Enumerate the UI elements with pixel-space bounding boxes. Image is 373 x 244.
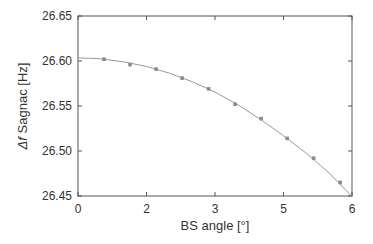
fit-curve xyxy=(78,58,352,197)
y-tick-label: 26.50 xyxy=(42,144,72,158)
plot-frame xyxy=(78,16,352,196)
y-axis-ticks: 26.4526.5026.5526.6026.65 xyxy=(42,9,352,203)
data-point-marker xyxy=(180,76,184,80)
data-point-marker xyxy=(128,63,132,67)
data-point-marker xyxy=(259,117,263,121)
x-tick-label: 0 xyxy=(75,202,82,216)
data-point-marker xyxy=(207,87,211,91)
y-axis-label-text: Sagnac [Hz] xyxy=(15,63,30,137)
data-point-marker xyxy=(338,181,342,185)
data-point-marker xyxy=(154,67,158,71)
y-axis-label: Δf Sagnac [Hz] xyxy=(15,63,30,151)
data-point-marker xyxy=(312,156,316,160)
x-axis-ticks: 02356 xyxy=(75,16,356,216)
chart: 02356 26.4526.5026.5526.6026.65 BS angle… xyxy=(0,0,373,244)
x-tick-label: 3 xyxy=(212,202,219,216)
y-tick-label: 26.60 xyxy=(42,54,72,68)
data-point-marker xyxy=(102,57,106,61)
x-axis-label: BS angle [°] xyxy=(181,218,250,233)
data-point-marker xyxy=(285,137,289,141)
data-point-marker xyxy=(233,102,237,106)
x-tick-label: 2 xyxy=(143,202,150,216)
y-tick-label: 26.55 xyxy=(42,99,72,113)
x-tick-label: 5 xyxy=(280,202,287,216)
x-tick-label: 6 xyxy=(349,202,356,216)
y-tick-label: 26.45 xyxy=(42,189,72,203)
y-tick-label: 26.65 xyxy=(42,9,72,23)
data-points xyxy=(102,57,342,184)
